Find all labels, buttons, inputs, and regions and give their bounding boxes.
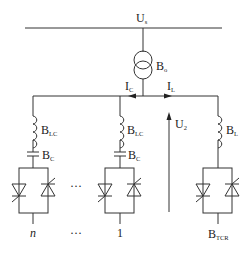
label-bl: BL <box>226 123 238 137</box>
inductor-icon <box>120 116 124 148</box>
branch-label-1: 1 <box>117 226 123 240</box>
inductor-icon <box>33 116 37 148</box>
label-blc-1: BLC <box>127 123 143 137</box>
inductor-icon <box>218 116 222 148</box>
capacitor-icon <box>27 152 39 156</box>
thyristor-pair-icon <box>98 178 141 202</box>
arrow-up-icon <box>167 112 172 120</box>
ellipsis-middle: ··· <box>70 179 82 193</box>
capacitor-icon <box>114 152 126 156</box>
label-ic: IC <box>125 79 133 93</box>
circuit-diagram: Us Bo IC IL U2 BLC BC BLC BC BL BTCR ···… <box>0 0 251 254</box>
ellipsis-bottom: ··· <box>70 226 82 240</box>
label-bc-n: BC <box>42 148 54 162</box>
transformer-icon <box>134 51 152 79</box>
label-btcr: BTCR <box>208 227 229 241</box>
thyristor-pair-icon <box>196 178 239 202</box>
label-u2: U2 <box>175 117 187 131</box>
label-bo: Bo <box>156 59 167 73</box>
arrow-left-icon <box>128 94 136 99</box>
branch-label-n: n <box>30 226 36 240</box>
label-blc-n: BLC <box>41 123 57 137</box>
branch-tcr <box>203 96 232 224</box>
label-bc-1: BC <box>128 148 140 162</box>
label-us: Us <box>136 11 148 25</box>
label-il: IL <box>167 79 175 93</box>
arrow-right-icon <box>164 94 172 99</box>
thyristor-pair-icon <box>12 178 55 202</box>
